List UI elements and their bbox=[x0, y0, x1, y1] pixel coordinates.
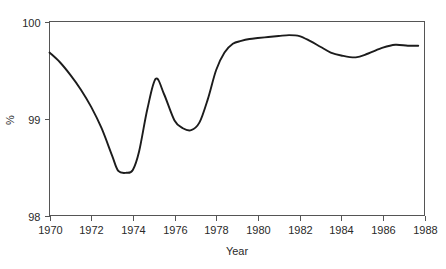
chart-container: 9899100 19701972197419761978198019821984… bbox=[0, 0, 446, 269]
x-tick-label: 1980 bbox=[246, 224, 270, 236]
y-axis-tick-labels: 9899100 bbox=[22, 17, 40, 223]
x-tick-label: 1974 bbox=[121, 224, 145, 236]
y-tick-label: 98 bbox=[28, 211, 40, 223]
x-tick-label: 1976 bbox=[163, 224, 187, 236]
y-axis-ticks bbox=[45, 23, 50, 217]
x-tick-label: 1984 bbox=[329, 224, 353, 236]
x-axis-tick-labels: 1970197219741976197819801982198419861988 bbox=[38, 224, 437, 236]
y-tick-label: 100 bbox=[22, 17, 40, 29]
y-tick-label: 99 bbox=[28, 114, 40, 126]
plot-frame bbox=[50, 22, 425, 216]
x-tick-label: 1972 bbox=[79, 224, 103, 236]
x-axis-title: Year bbox=[226, 245, 249, 257]
x-tick-label: 1970 bbox=[38, 224, 62, 236]
y-axis-title: % bbox=[4, 115, 16, 125]
x-tick-label: 1982 bbox=[288, 224, 312, 236]
x-tick-label: 1986 bbox=[371, 224, 395, 236]
x-tick-label: 1988 bbox=[413, 224, 437, 236]
x-tick-label: 1978 bbox=[204, 224, 228, 236]
x-axis-ticks bbox=[51, 216, 426, 221]
line-chart: 9899100 19701972197419761978198019821984… bbox=[0, 0, 446, 269]
data-series-line bbox=[50, 35, 419, 173]
